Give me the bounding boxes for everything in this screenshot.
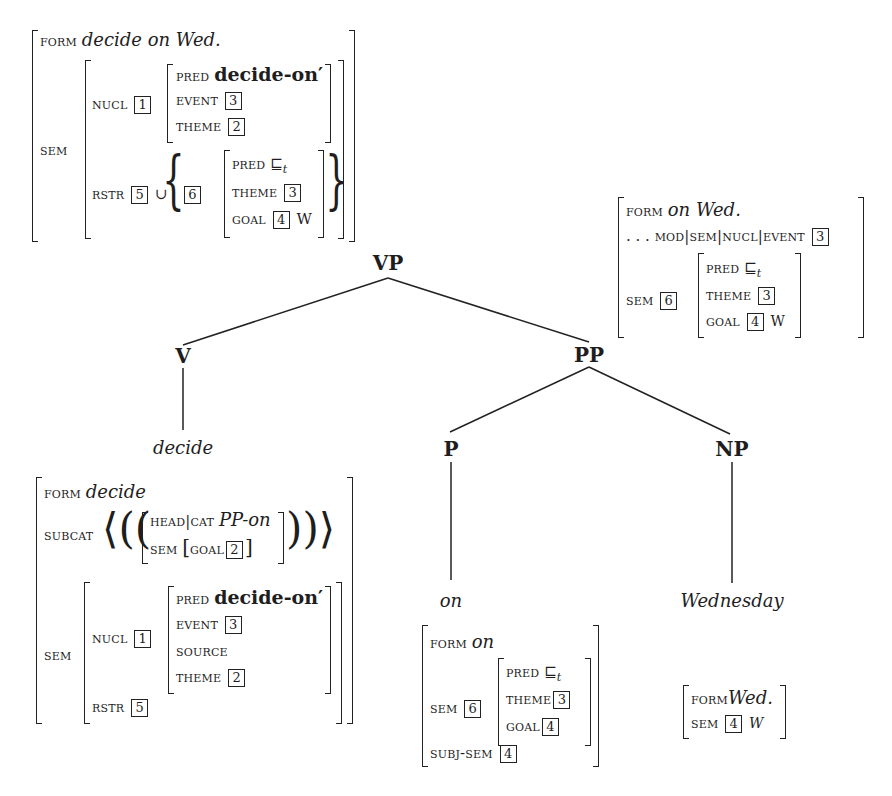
path-ellipsis: . . . [626, 227, 650, 245]
bracket-right [593, 625, 599, 767]
avm-feature-path: MOD|SEM|NUCL|EVENT [655, 227, 805, 245]
avm-feature-label: SEM [44, 646, 71, 664]
bracket-right [318, 150, 324, 238]
angle-close: ))⟩ [286, 508, 335, 550]
avm-tag: 2 [228, 118, 245, 136]
avm-feature-label: SEM [40, 141, 67, 159]
bracket-right [780, 685, 786, 739]
bracket-left [36, 477, 42, 724]
avm-feature-label: FORM [691, 690, 728, 708]
avm-feature-label: SEM [691, 714, 718, 732]
avm-tag: 3 [225, 92, 242, 110]
avm-feature-label: PRED [506, 663, 539, 681]
avm-tag: 4 [500, 745, 517, 763]
tree-node-pp: PP [574, 343, 604, 367]
avm-feature-label: FORM [40, 32, 77, 50]
subscript: t [283, 163, 287, 176]
avm-tag: 4 [747, 313, 764, 331]
avm-feature-label: SOURCE [176, 642, 228, 660]
avm-form-value: decide [86, 481, 146, 502]
avm-feature-label: GOAL [706, 312, 740, 330]
avm-feature-label: SEM [150, 540, 177, 558]
brace-close: } [325, 148, 347, 212]
leaf-on: on [440, 590, 462, 611]
tree-node-np: NP [715, 437, 748, 461]
avm-tag: 5 [131, 186, 148, 204]
avm-headcat-value: PP-on [219, 509, 271, 530]
avm-feature-label: SUBJ-SEM [430, 744, 493, 762]
avm-tag: 6 [660, 292, 677, 310]
avm-pred-value: ⊑ [544, 663, 557, 681]
bracket-left [498, 658, 504, 746]
avm-feature-label: RSTR [92, 698, 124, 716]
subscript: t [557, 671, 561, 684]
avm-feature-label: NUCL [92, 95, 127, 113]
avm-feature-label: THEME [232, 183, 277, 201]
bracket-left [422, 625, 428, 767]
avm-form-value: on [472, 631, 494, 652]
bracket-left [142, 512, 148, 564]
avm-feature-label: PRED [176, 590, 209, 608]
bracket-right [325, 586, 331, 694]
avm-feature-label: GOAL [506, 717, 540, 735]
avm-sem-value: W [749, 715, 763, 731]
avm-form-value: Wed. [728, 687, 773, 708]
avm-feature-label: THEME [506, 690, 551, 708]
bracket-left: [ [182, 535, 190, 559]
avm-pred-value: ⊑ [744, 259, 757, 277]
avm-tag: 6 [184, 186, 201, 204]
bracket-left [84, 582, 90, 724]
avm-feature-label: SEM [430, 699, 457, 717]
bracket-left [85, 60, 91, 239]
avm-tag: 3 [553, 691, 570, 709]
tree-node-p: P [443, 437, 458, 461]
avm-tag: 2 [228, 669, 245, 687]
bracket-left [683, 685, 689, 739]
avm-tag: 4 [273, 211, 290, 229]
bracket-left [32, 30, 38, 242]
avm-feature-label: FORM [626, 202, 663, 220]
subscript: t [757, 267, 761, 280]
avm-feature-label: THEME [706, 286, 751, 304]
leaf-decide: decide [153, 437, 213, 458]
bracket-right [795, 253, 801, 338]
avm-form-value: on Wed. [668, 199, 741, 220]
avm-feature-label: RSTR [92, 185, 124, 203]
avm-feature-label: THEME [176, 117, 221, 135]
avm-feature-label: HEAD|CAT [150, 512, 214, 530]
avm-form-value: decide on Wed. [82, 29, 221, 50]
avm-tag: 3 [225, 616, 242, 634]
bracket-right [347, 477, 353, 724]
avm-tag: 1 [134, 96, 151, 114]
avm-pred-value: decide-on′ [214, 586, 323, 608]
avm-feature-label: THEME [176, 668, 221, 686]
tree-edges [0, 0, 892, 796]
avm-tag: 6 [464, 700, 481, 718]
bracket-left [618, 197, 624, 338]
avm-feature-label: PRED [176, 67, 209, 85]
leaf-wednesday: Wednesday [680, 590, 783, 611]
tree-node-v: V [175, 344, 191, 368]
bracket-right [325, 64, 331, 143]
avm-feature-label: PRED [232, 155, 265, 173]
bracket-left [224, 150, 230, 238]
avm-tag: 2 [226, 541, 243, 559]
avm-feature-label: SEM [626, 291, 653, 309]
bracket-left [167, 64, 173, 143]
bracket-right [278, 512, 284, 564]
bracket-right [858, 197, 864, 338]
avm-feature-label: SUBCAT [44, 526, 93, 544]
avm-feature-label: GOAL [232, 210, 266, 228]
avm-feature-label: GOAL [190, 540, 224, 558]
avm-tag: 3 [758, 287, 775, 305]
avm-feature-label: NUCL [92, 629, 127, 647]
bracket-right [336, 582, 342, 724]
avm-tag: 4 [542, 718, 559, 736]
avm-tag: 1 [134, 630, 151, 648]
tree-node-vp: VP [373, 251, 404, 275]
avm-goal-value: W [296, 210, 312, 228]
avm-feature-label: FORM [44, 484, 81, 502]
avm-feature-label: PRED [706, 259, 739, 277]
avm-tag: 4 [725, 715, 742, 733]
bracket-right [585, 658, 591, 746]
